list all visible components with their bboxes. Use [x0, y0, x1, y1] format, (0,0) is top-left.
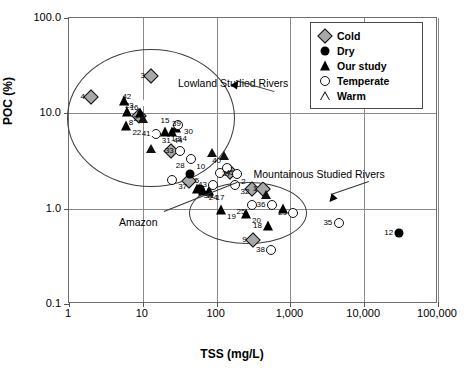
x-tick-label-10: 10: [136, 308, 148, 319]
legend-item-cold[interactable]: Cold: [318, 28, 416, 43]
point-label-18: 18: [253, 222, 262, 230]
legend-item-our-study[interactable]: Our study: [318, 58, 416, 73]
legend-label: Our study: [337, 60, 387, 72]
x-tick-label-100: 100: [206, 308, 224, 319]
point-cold-3: [143, 68, 159, 84]
point-label-9: 9: [242, 236, 246, 244]
point-our-study-18: [263, 220, 273, 230]
x-axis-title: TSS (mg/L): [0, 347, 464, 361]
open-circle-marker: [320, 76, 330, 86]
gridline-x-1,000: [290, 18, 291, 302]
point-our-study-22: [121, 121, 131, 131]
point-label-38: 38: [256, 246, 265, 254]
x-tick-label-1: 1: [65, 308, 71, 319]
legend-label: Dry: [337, 45, 355, 57]
point-label-29: 29: [278, 209, 287, 217]
point-label-25: 25: [237, 208, 246, 216]
legend-symbol-circle-open-icon: [318, 74, 332, 88]
point-temperate-35: [334, 218, 344, 228]
legend-label: Warm: [337, 90, 366, 102]
point-label-30: 30: [184, 128, 193, 136]
tick-y-1.0: [64, 209, 69, 210]
point-label-32: 32: [241, 188, 250, 196]
annotation-amazon: Amazon: [119, 217, 158, 228]
point-temperate-38: [266, 245, 276, 255]
point-temperate-28: [186, 154, 196, 164]
x-tick-label-10,000: 10,000: [346, 308, 380, 319]
point-label-22: 22: [132, 129, 141, 137]
point-label-2: 2: [241, 178, 245, 186]
point-label-39: 39: [172, 120, 181, 128]
point-temperate-37: [167, 175, 177, 185]
x-tick-label-1,000: 1,000: [276, 308, 304, 319]
point-temperate-33: [175, 146, 185, 156]
open-triangle-marker: [320, 91, 330, 100]
point-warm-44: [219, 134, 229, 160]
point-label-41: 41: [142, 130, 151, 138]
point-label-19: 19: [227, 213, 236, 221]
legend-label: Cold: [337, 30, 360, 42]
legend-symbol-diamond-gray-icon: [318, 29, 332, 43]
point-label-12: 12: [384, 229, 393, 237]
tick-y-10.0: [64, 113, 69, 114]
y-tick-label-1.0: 1.0: [1, 202, 61, 213]
point-temperate-25: [247, 200, 257, 210]
legend-item-warm[interactable]: Warm: [318, 88, 416, 103]
scatter-plot-figure: POC (%) TSS (mg/L) 438657219101112162122…: [0, 0, 464, 372]
legend-item-dry[interactable]: Dry: [318, 43, 416, 58]
point-cold-4: [83, 89, 99, 105]
x-tick-label-100,000: 100,000: [417, 308, 457, 319]
point-label-10: 10: [196, 163, 205, 171]
annotation-arrowhead-1: [326, 193, 337, 204]
point-label-36: 36: [257, 201, 266, 209]
point-label-27: 27: [222, 170, 231, 178]
y-tick-label-100.0: 100.0: [1, 12, 61, 23]
point-label-35: 35: [323, 219, 332, 227]
y-tick-label-0.1: 0.1: [1, 298, 61, 309]
gridline-x-10: [143, 18, 144, 302]
point-temperate-36: [267, 200, 277, 210]
point-label-33: 33: [165, 147, 174, 155]
point-warm-42: [138, 97, 148, 123]
point-dry-12: [395, 229, 404, 238]
legend-symbol-triangle-filled-icon: [318, 59, 332, 73]
point-label-44: 44: [174, 137, 183, 145]
filled-triangle-marker: [320, 60, 330, 70]
filled-circle-marker: [321, 46, 330, 55]
y-tick-label-10.0: 10.0: [1, 107, 61, 118]
point-label-28: 28: [176, 162, 185, 170]
legend-symbol-triangle-open-icon: [318, 89, 332, 103]
point-label-43: 43: [198, 181, 207, 189]
point-our-study-19: [216, 204, 226, 214]
point-label-3: 3: [141, 72, 145, 80]
legend: ColdDryOur studyTemperateWarm: [310, 22, 423, 109]
tick-y-0.1: [64, 304, 69, 305]
legend-item-temperate[interactable]: Temperate: [318, 73, 416, 88]
diamond-marker: [317, 28, 333, 44]
point-warm-39: [207, 131, 217, 157]
point-label-17: 17: [215, 194, 224, 202]
point-label-1: 1: [253, 185, 257, 193]
point-temperate-29: [288, 208, 298, 218]
point-dry-10: [186, 170, 195, 179]
gridline-x-100,000: [438, 18, 439, 302]
point-label-31: 31: [162, 137, 171, 145]
legend-label: Temperate: [337, 75, 389, 87]
legend-symbol-circle-filled-icon: [318, 44, 332, 58]
point-label-4: 4: [81, 93, 85, 101]
annotation-mountainous-studied-rivers: Mountainous Studied Rivers: [253, 169, 384, 180]
tick-y-100.0: [64, 18, 69, 19]
point-label-15: 15: [161, 117, 170, 125]
point-label-23: 23: [125, 102, 134, 110]
point-temperate-27: [232, 169, 242, 179]
point-label-37: 37: [178, 183, 187, 191]
point-label-42: 42: [122, 93, 131, 101]
